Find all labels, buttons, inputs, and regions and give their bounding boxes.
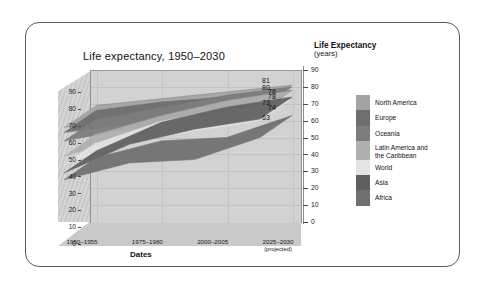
left-axis-tick-mark	[78, 92, 81, 93]
left-value-axis: 0102030405060708090	[55, 62, 81, 237]
legend-swatch	[356, 110, 370, 125]
right-axis-tick-label: 0	[311, 219, 315, 226]
right-axis-tick-label: 50	[311, 135, 319, 142]
left-axis-tick: 70	[69, 122, 81, 131]
series-end-value: 63	[262, 114, 270, 121]
legend-item[interactable]: Asia	[356, 175, 452, 190]
right-axis-tick-mark	[303, 205, 308, 206]
right-axis-caption-sub: (years)	[314, 50, 376, 59]
legend-item-label: Latin America and the Caribbean	[370, 141, 428, 160]
x-axis-title: Dates	[130, 250, 152, 259]
right-axis-tick-label: 10	[311, 202, 319, 209]
right-axis-tick-label: 90	[311, 67, 319, 74]
legend-item-label: Oceania	[370, 126, 400, 138]
legend-swatch	[356, 175, 370, 190]
left-axis-tick: 60	[69, 139, 81, 148]
legend-item-label: Europe	[370, 110, 396, 122]
legend-item[interactable]: World	[356, 160, 452, 175]
left-axis-tick-mark	[78, 143, 81, 144]
legend-swatch	[356, 160, 370, 175]
left-axis-tick-label: 40	[69, 174, 76, 181]
gridline-vertical	[228, 71, 229, 223]
x-axis-tick-label: 2000–2005	[185, 238, 241, 246]
left-axis-tick-label: 70	[69, 123, 76, 130]
legend-swatch	[356, 126, 370, 141]
legend-item-label: World	[370, 160, 392, 172]
legend-item[interactable]: North America	[356, 95, 452, 110]
left-axis-tick: 50	[69, 156, 81, 165]
left-axis-tick-mark	[78, 176, 81, 177]
left-axis-tick-label: 60	[69, 140, 76, 147]
left-axis-tick-mark	[78, 193, 81, 194]
left-axis-tick: 80	[69, 105, 81, 114]
right-axis-tick-label: 20	[311, 185, 319, 192]
legend-item-label: Asia	[370, 175, 388, 187]
legend: North AmericaEuropeOceaniaLatin America …	[356, 95, 452, 206]
series-end-value: 74	[268, 104, 276, 111]
gridline-horizontal	[91, 205, 301, 206]
legend-swatch	[356, 190, 370, 205]
legend-swatch	[356, 95, 370, 110]
right-axis-tick-label: 70	[311, 101, 319, 108]
gridline-vertical	[97, 71, 98, 223]
legend-item[interactable]: Latin America and the Caribbean	[356, 141, 452, 160]
right-axis-tick: 10	[303, 201, 319, 210]
legend-item-label: North America	[370, 95, 417, 107]
left-axis-tick-label: 90	[69, 89, 76, 96]
left-axis-tick-mark	[78, 126, 81, 127]
right-axis-tick-mark	[303, 222, 308, 223]
right-value-axis: 0102030405060708090	[303, 60, 335, 235]
legend-swatch	[356, 141, 370, 160]
right-axis-tick-label: 80	[311, 84, 319, 91]
left-axis-tick: 20	[69, 206, 81, 215]
left-axis-tick-label: 50	[69, 157, 76, 164]
left-axis-tick: 30	[69, 189, 81, 198]
left-axis-tick-mark	[78, 160, 81, 161]
x-axis-tick-labels: 1950–19551975–19802000–20052025–2030(pro…	[58, 238, 310, 262]
gridline-vertical	[162, 71, 163, 223]
left-axis-tick: 10	[69, 223, 81, 232]
x-axis-tick-label: 2025–2030(projected)	[250, 238, 306, 254]
legend-item[interactable]: Europe	[356, 110, 452, 125]
x-axis-tick-sublabel: (projected)	[250, 246, 306, 254]
right-axis-caption: Life Expectancy (years)	[314, 41, 376, 59]
series-end-value-labels: 81788078737463	[258, 60, 306, 190]
legend-item-label: Africa	[370, 190, 392, 202]
x-axis-tick-label: 1975–1980	[119, 238, 175, 246]
right-axis-tick-label: 40	[311, 152, 319, 159]
left-axis-tick-mark	[78, 210, 81, 211]
right-axis-tick-label: 30	[311, 168, 319, 175]
left-axis-tick-mark	[78, 227, 81, 228]
left-axis-tick: 40	[69, 172, 81, 181]
x-axis-tick-label: 1950–1955	[54, 238, 110, 246]
left-axis-tick-label: 30	[69, 191, 76, 198]
left-axis-tick: 90	[69, 88, 81, 97]
left-axis-tick-mark	[78, 109, 81, 110]
left-axis-tick-label: 10	[69, 224, 76, 231]
right-axis-tick-label: 60	[311, 118, 319, 125]
legend-item[interactable]: Oceania	[356, 126, 452, 141]
left-axis-tick-label: 20	[69, 207, 76, 214]
legend-item[interactable]: Africa	[356, 190, 452, 205]
series-end-value: 80	[262, 84, 270, 91]
right-axis-tick: 0	[303, 218, 315, 227]
left-axis-tick-label: 80	[69, 106, 76, 113]
